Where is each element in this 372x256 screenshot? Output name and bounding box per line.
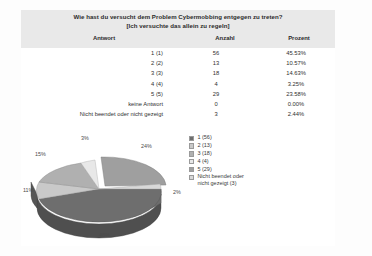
cell-answer: 2 (2) bbox=[21, 58, 187, 68]
pie-label-15: 15% bbox=[35, 151, 46, 157]
legend-item: 5 (29) bbox=[189, 166, 317, 173]
cell-percent: 23.58% bbox=[263, 89, 335, 99]
pie-label-46: 46% bbox=[99, 232, 110, 238]
cell-percent: 14.63% bbox=[263, 68, 335, 78]
screenshot-root: Wie hast du versucht dem Problem Cybermo… bbox=[0, 0, 372, 256]
cell-count: 0 bbox=[187, 99, 263, 109]
legend-label: 5 (29) bbox=[197, 166, 211, 173]
table-row: keine Antwort 0 0.00% bbox=[21, 99, 335, 109]
pie-label-2: 2% bbox=[173, 189, 181, 195]
legend-item: 3 (18) bbox=[189, 150, 317, 157]
cell-percent: 3.25% bbox=[263, 79, 335, 89]
pie-label-11: 11% bbox=[23, 187, 33, 193]
table-row: 4 (4) 4 3.25% bbox=[21, 79, 335, 89]
legend-item: 1 (56) bbox=[189, 134, 317, 141]
column-header-answer: Antwort bbox=[21, 32, 187, 48]
legend-label: 4 (4) bbox=[197, 158, 208, 165]
legend-label: Nicht beendet oder nicht gezeigt (3) bbox=[197, 173, 243, 186]
pie-chart: 24% 2% 46% 11% 15% 3% bbox=[23, 132, 195, 244]
pie-label-24: 24% bbox=[141, 143, 152, 149]
table-row: 1 (1) 56 45.53% bbox=[21, 48, 335, 58]
legend-swatch-icon bbox=[189, 143, 194, 148]
legend-item: 2 (13) bbox=[189, 142, 317, 149]
cell-percent: 45.53% bbox=[263, 48, 335, 58]
pie-chart-svg bbox=[23, 132, 195, 244]
results-table: Antwort Anzahl Prozent 1 (1) 56 45.53% 2… bbox=[21, 32, 335, 119]
cell-count: 56 bbox=[187, 48, 263, 58]
legend-swatch-icon bbox=[189, 167, 194, 172]
report-panel: Wie hast du versucht dem Problem Cybermo… bbox=[21, 10, 335, 246]
legend-swatch-icon bbox=[189, 159, 194, 164]
chart-legend: 1 (56) 2 (13) 3 (18) 4 (4) 5 (29) bbox=[189, 134, 317, 188]
legend-label: 1 (56) bbox=[197, 134, 211, 141]
table-row: 2 (2) 13 10.57% bbox=[21, 58, 335, 68]
cell-answer: 4 (4) bbox=[21, 79, 187, 89]
pie-label-3: 3% bbox=[81, 135, 89, 141]
cell-count: 29 bbox=[187, 89, 263, 99]
cell-answer: 5 (5) bbox=[21, 89, 187, 99]
column-header-count: Anzahl bbox=[187, 32, 263, 48]
legend-label: 2 (13) bbox=[197, 142, 211, 149]
cell-count: 18 bbox=[187, 68, 263, 78]
cell-count: 13 bbox=[187, 58, 263, 68]
cell-answer: keine Antwort bbox=[21, 99, 187, 109]
cell-answer: 1 (1) bbox=[21, 48, 187, 58]
pie-top-face bbox=[36, 157, 166, 222]
legend-swatch-icon bbox=[189, 136, 194, 141]
chart-area: 24% 2% 46% 11% 15% 3% 1 (56) 2 (13) 3 bbox=[21, 118, 335, 246]
cell-percent: 0.00% bbox=[263, 99, 335, 109]
legend-label: 3 (18) bbox=[197, 150, 211, 157]
page-title: Wie hast du versucht dem Problem Cybermo… bbox=[21, 13, 335, 22]
table-header-row: Antwort Anzahl Prozent bbox=[21, 32, 335, 48]
legend-item: 4 (4) bbox=[189, 158, 317, 165]
pie-slice-5 bbox=[101, 157, 166, 186]
legend-swatch-icon bbox=[189, 151, 194, 156]
column-header-percent: Prozent bbox=[263, 32, 335, 48]
table-row: 3 (3) 18 14.63% bbox=[21, 68, 335, 78]
cell-answer: 3 (3) bbox=[21, 68, 187, 78]
cell-percent: 10.57% bbox=[263, 58, 335, 68]
cell-count: 4 bbox=[187, 79, 263, 89]
legend-swatch-icon bbox=[189, 175, 194, 180]
table-row: 5 (5) 29 23.58% bbox=[21, 89, 335, 99]
page-subtitle: [Ich versuchte das allein zu regeln] bbox=[21, 22, 335, 29]
legend-item: Nicht beendet oder nicht gezeigt (3) bbox=[189, 173, 317, 186]
